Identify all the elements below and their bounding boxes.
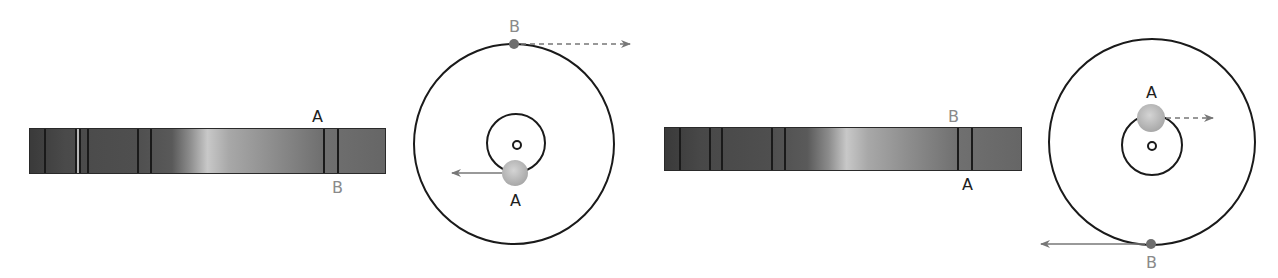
body-a-right <box>1137 104 1165 132</box>
body-b-left <box>509 39 519 49</box>
body-b-right <box>1146 239 1156 249</box>
orbit-left <box>414 39 630 244</box>
orbit-right-label-a: A <box>1146 85 1157 101</box>
orbit-right-label-b: B <box>1146 255 1157 271</box>
orbit-diagrams <box>0 0 1278 278</box>
center-mass-left-icon <box>513 141 521 149</box>
orbit-left-label-b: B <box>509 19 520 35</box>
center-mass-right-icon <box>1148 142 1156 150</box>
orbit-left-label-a: A <box>510 193 521 209</box>
orbit-right <box>1041 39 1255 249</box>
body-a-left <box>502 160 528 186</box>
